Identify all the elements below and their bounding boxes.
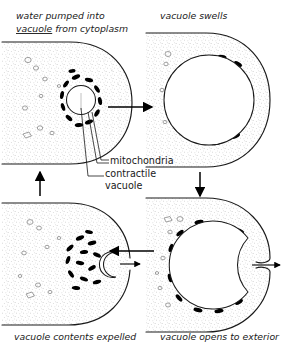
caption-bottom-right: vacuole opens to exterior	[160, 331, 280, 342]
caption-top-right: vacuole swells	[160, 10, 227, 21]
label-contractile-vacuole-line1: contractile	[105, 168, 156, 179]
caption-bottom-left: vacuole contents expelled	[14, 331, 136, 342]
label-mitochondria: mitochondria	[110, 155, 174, 166]
label-contractile-vacuole-line2: vacuole	[105, 180, 142, 191]
svg-text:vacuole from cytoplasm: vacuole from cytoplasm	[16, 23, 128, 34]
caption-top-left-underlined: vacuole	[16, 23, 52, 34]
caption-top-left-rest: from cytoplasm	[52, 23, 128, 34]
contractile-vacuole-diagram: water pumped into vacuole from cytoplasm…	[0, 0, 282, 359]
caption-top-left-line1: water pumped into	[16, 10, 105, 21]
contractile-vacuole-shape	[164, 55, 254, 145]
